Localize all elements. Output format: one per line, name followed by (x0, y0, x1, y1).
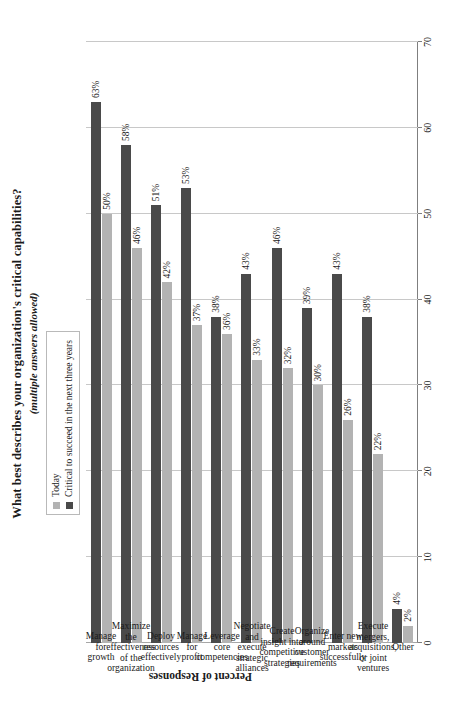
category-label-line: or joint (344, 652, 402, 663)
bar-group: 53%37% (177, 42, 207, 643)
bar-value-label-today: 33% (252, 338, 262, 355)
legend-swatch-today (53, 502, 60, 509)
plot-area: 63%50%58%46%51%42%53%37%38%36%43%33%46%3… (86, 42, 418, 643)
bar-today (343, 420, 353, 643)
bar-today (252, 360, 262, 643)
bar-value-label-critical: 38% (211, 295, 221, 312)
bar-critical (272, 248, 282, 643)
bar-critical (302, 308, 312, 643)
bar-critical (332, 274, 342, 643)
bar-today (222, 334, 232, 643)
bar-today (162, 282, 172, 643)
chart-figure: What best describes your organization's … (0, 0, 462, 707)
bar-value-label-critical: 43% (332, 252, 342, 269)
bar-group: 39%30% (297, 42, 327, 643)
bar-critical (121, 145, 131, 643)
bar-group: 4%2% (388, 42, 418, 643)
chart-subtitle: (multiple answers allowed) (26, 0, 40, 707)
page-title: What best describes your organization's … (10, 0, 25, 707)
chart-legend: Today Critical to succeed in the next th… (46, 331, 80, 515)
bar-today (102, 214, 112, 643)
legend-swatch-critical (66, 502, 73, 509)
bar-group: 63%50% (86, 42, 116, 643)
bar-value-label-today: 42% (162, 261, 172, 278)
bar-value-label-critical: 58% (121, 124, 131, 141)
bar-group: 58%46% (116, 42, 146, 643)
legend-item-today: Today (51, 340, 62, 509)
axis-title: Percent of Responses (149, 671, 252, 683)
legend-label-today: Today (51, 473, 62, 497)
bar-value-label-today: 26% (343, 398, 353, 415)
category-label-line: Other (374, 642, 432, 653)
axis-tick-label: 60 (422, 123, 433, 133)
bar-critical (211, 317, 221, 643)
bar-today (313, 385, 323, 643)
bar-today (192, 325, 202, 643)
bar-today (132, 248, 142, 643)
bar-value-label-today: 50% (102, 192, 112, 209)
chart-title-block: What best describes your organization's … (10, 0, 40, 707)
bar-critical (362, 317, 372, 643)
bar-value-label-today: 22% (373, 433, 383, 450)
legend-item-critical: Critical to succeed in the next three ye… (64, 340, 75, 509)
bar-critical (241, 274, 251, 643)
bar-value-label-critical: 51% (151, 184, 161, 201)
axis-tick-label: 20 (422, 466, 433, 476)
bar-group: 38%22% (358, 42, 388, 643)
bar-today (403, 626, 413, 643)
bar-value-label-critical: 43% (241, 252, 251, 269)
bar-value-label-today: 36% (222, 313, 232, 330)
category-label-line: mergers, (344, 631, 402, 642)
category-label-line: Maximize (102, 621, 160, 632)
chart-canvas: What best describes your organization's … (0, 0, 462, 707)
bar-value-label-today: 2% (403, 609, 413, 622)
bar-value-label-critical: 46% (272, 227, 282, 244)
bar-critical (151, 205, 161, 643)
axis-tick-label: 40 (422, 295, 433, 305)
bar-value-label-critical: 4% (392, 592, 402, 605)
bar-critical (181, 188, 191, 643)
bar-group: 51%42% (146, 42, 176, 643)
axis-tick-label: 70 (422, 37, 433, 47)
legend-label-critical: Critical to succeed in the next three ye… (64, 340, 75, 497)
axis-tick-label: 10 (422, 552, 433, 562)
bar-group: 38%36% (207, 42, 237, 643)
bar-value-label-today: 30% (313, 364, 323, 381)
bar-value-label-today: 37% (192, 304, 202, 321)
bar-group: 46%32% (267, 42, 297, 643)
bar-value-label-critical: 53% (181, 167, 191, 184)
bar-today (373, 454, 383, 643)
bar-today (283, 368, 293, 643)
bar-value-label-critical: 63% (91, 81, 101, 98)
bar-group: 43%33% (237, 42, 267, 643)
bar-value-label-critical: 39% (302, 287, 312, 304)
bar-value-label-critical: 38% (362, 295, 372, 312)
bar-value-label-today: 32% (283, 347, 293, 364)
bar-critical (91, 102, 101, 643)
bar-value-label-today: 46% (132, 227, 142, 244)
category-label-line: Execute (344, 621, 402, 632)
category-label-line: ventures (344, 663, 402, 674)
axis-tick-label: 50 (422, 209, 433, 219)
bar-group: 43%26% (327, 42, 357, 643)
axis-tick-label: 30 (422, 380, 433, 390)
